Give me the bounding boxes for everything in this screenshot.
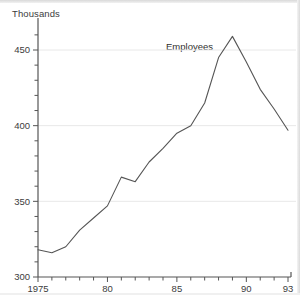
x-axis-ticks [38, 277, 288, 282]
y-axis-tick-labels: 300350400450 [14, 44, 30, 282]
y-tick-label-350: 350 [14, 196, 30, 207]
gridlines [38, 50, 296, 201]
x-tick-label-93: 93 [283, 283, 294, 294]
x-axis-tick-labels: 197580859093 [27, 283, 293, 294]
y-tick-label-400: 400 [14, 120, 30, 131]
x-tick-label-85: 85 [172, 283, 183, 294]
x-tick-label-80: 80 [102, 283, 113, 294]
x-tick-label-90: 90 [241, 283, 252, 294]
x-tick-label-1975: 1975 [27, 283, 48, 294]
plot-area: 300350400450 197580859093 [0, 0, 300, 295]
series-line-employees [38, 36, 288, 252]
employees-line-chart: Thousands Employees 300350400450 1975808… [0, 0, 300, 295]
data-series-employees [38, 36, 288, 252]
y-axis-ticks [33, 35, 38, 277]
y-tick-label-450: 450 [14, 44, 30, 55]
y-tick-label-300: 300 [14, 271, 30, 282]
